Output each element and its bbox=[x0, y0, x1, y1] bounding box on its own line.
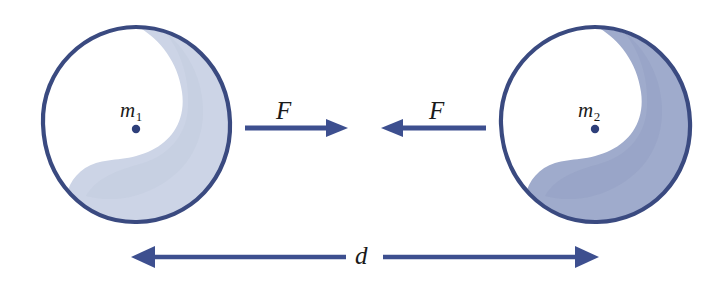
distance-label: d bbox=[355, 243, 368, 268]
right-mass-symbol: m bbox=[578, 98, 593, 122]
right-mass-label: m2 bbox=[578, 100, 600, 121]
force-arrow-right-pointing bbox=[245, 119, 348, 137]
left-mass-symbol: m bbox=[120, 98, 135, 122]
force-label-left: F bbox=[276, 98, 292, 123]
left-mass-subscript: 1 bbox=[136, 109, 143, 124]
right-mass-subscript: 2 bbox=[594, 109, 601, 124]
force-label-right: F bbox=[429, 98, 445, 123]
diagram-canvas: m1 m2 F F d bbox=[0, 0, 726, 291]
right-mass-sphere bbox=[501, 27, 700, 225]
left-mass-label: m1 bbox=[120, 100, 142, 121]
gravitation-figure: m1 m2 F F d bbox=[0, 0, 726, 291]
left-mass-sphere bbox=[43, 27, 240, 225]
right-mass-center-dot bbox=[591, 125, 599, 133]
left-mass-center-dot bbox=[132, 125, 140, 133]
